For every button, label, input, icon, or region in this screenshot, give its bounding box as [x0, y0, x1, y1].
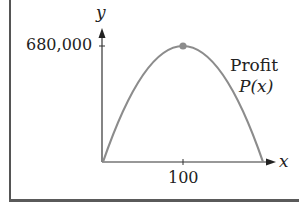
y-axis-label: y: [96, 2, 106, 22]
y-tick-label: 680,000: [26, 35, 92, 54]
x-axis-arrow-icon: [266, 159, 276, 166]
y-axis-arrow-icon: [99, 28, 106, 38]
series-function-label: P(x): [239, 76, 273, 96]
series-name-label: Profit: [230, 55, 278, 75]
x-tick-label: 100: [168, 168, 199, 187]
plot-area: [0, 0, 299, 204]
maximum-point-marker: [179, 42, 186, 49]
x-axis-label: x: [279, 151, 289, 171]
